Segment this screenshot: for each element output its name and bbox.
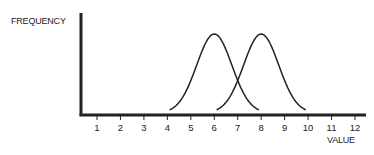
distribution-1-curve xyxy=(170,34,259,110)
x-tick-label: 12 xyxy=(350,122,361,133)
x-tick-label: 7 xyxy=(235,122,240,133)
x-tick-label: 6 xyxy=(212,122,217,133)
x-tick-label: 4 xyxy=(165,122,170,133)
y-axis-label: FREQUENCY xyxy=(11,16,66,26)
x-axis-label: VALUE xyxy=(327,135,355,145)
distribution-2-curve xyxy=(217,34,306,110)
x-tick-label: 8 xyxy=(259,122,264,133)
curves xyxy=(170,34,306,110)
x-tick-label: 1 xyxy=(94,122,99,133)
x-tick-label: 2 xyxy=(118,122,123,133)
x-tick-label: 11 xyxy=(327,122,337,133)
x-tick-label: 10 xyxy=(303,122,314,133)
x-tick-label: 5 xyxy=(188,122,193,133)
x-tick-label: 9 xyxy=(282,122,287,133)
frequency-chart: FREQUENCY 123456789101112 VALUE xyxy=(0,0,374,155)
x-axis-ticks: 123456789101112 xyxy=(94,115,360,133)
x-tick-label: 3 xyxy=(141,122,146,133)
